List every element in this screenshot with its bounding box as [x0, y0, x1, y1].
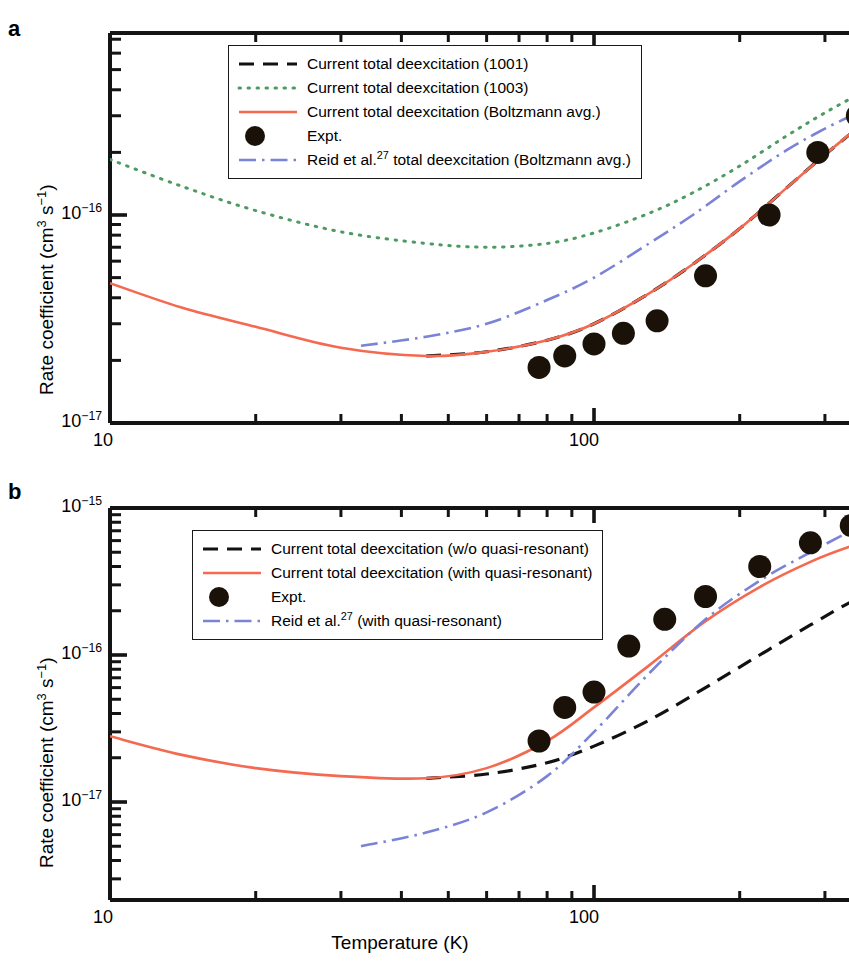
legend-label: Expt. — [271, 588, 306, 606]
expt-data-point — [583, 332, 606, 355]
dashed-black-line — [201, 538, 263, 560]
expt-data-point — [758, 204, 781, 227]
expt-data-point — [799, 531, 822, 554]
legend-label: Current total deexcitation (Boltzmann av… — [307, 103, 601, 121]
expt-data-point — [840, 514, 849, 537]
figure-container: a Rate coefficient (cm3 s−1) 10−16 10−17… — [0, 0, 849, 963]
legend-label: Current total deexcitation (1003) — [307, 79, 528, 97]
expt-data-point — [694, 585, 717, 608]
expt-data-point — [694, 264, 717, 287]
legend-row: Expt. — [237, 124, 631, 148]
expt-data-point — [528, 730, 551, 753]
dashdot-blue-line — [237, 149, 299, 171]
panel-b-legend: Current total deexcitation (w/o quasi-re… — [192, 530, 603, 640]
legend-row: Current total deexcitation (Boltzmann av… — [237, 100, 631, 124]
expt-data-point — [617, 635, 640, 658]
legend-label: Current total deexcitation (with quasi-r… — [271, 564, 592, 582]
expt-data-point — [646, 309, 669, 332]
legend-row: Current total deexcitation (w/o quasi-re… — [201, 537, 592, 561]
expt-data-point — [528, 356, 551, 379]
legend-row: Expt. — [201, 585, 592, 609]
expt-data-point — [553, 344, 576, 367]
panel-b: b Rate coefficient (cm3 s−1) 10−15 10−16… — [0, 470, 849, 963]
legend-row: Reid et al.27 (with quasi-resonant) — [201, 609, 592, 633]
legend-label: Current total deexcitation (1001) — [307, 55, 528, 73]
expt-data-point — [653, 608, 676, 631]
x-axis-label: Temperature (K) — [230, 932, 570, 954]
legend-row: Current total deexcitation (1003) — [237, 76, 631, 100]
expt-data-point — [612, 322, 635, 345]
expt-data-point — [748, 555, 771, 578]
expt-data-point — [806, 141, 829, 164]
panel-a-legend: Current total deexcitation (1001)Current… — [228, 45, 642, 179]
legend-row: Reid et al.27 total deexcitation (Boltzm… — [237, 148, 631, 172]
legend-label: Expt. — [307, 127, 342, 145]
legend-label: Reid et al.27 (with quasi-resonant) — [271, 612, 502, 630]
legend-row: Current total deexcitation (with quasi-r… — [201, 561, 592, 585]
filled-circle-marker — [201, 586, 263, 608]
solid-red-line — [201, 562, 263, 584]
dashdot-blue-line — [201, 610, 263, 632]
expt-data-point — [553, 696, 576, 719]
legend-label: Reid et al.27 total deexcitation (Boltzm… — [307, 151, 631, 169]
dashed-black-line — [237, 53, 299, 75]
solid-red-line — [237, 101, 299, 123]
legend-row: Current total deexcitation (1001) — [237, 52, 631, 76]
panel-a: a Rate coefficient (cm3 s−1) 10−16 10−17… — [0, 0, 849, 470]
legend-label: Current total deexcitation (w/o quasi-re… — [271, 540, 589, 558]
dotted-green-line — [237, 77, 299, 99]
filled-circle-marker — [237, 125, 299, 147]
expt-data-point — [583, 681, 606, 704]
